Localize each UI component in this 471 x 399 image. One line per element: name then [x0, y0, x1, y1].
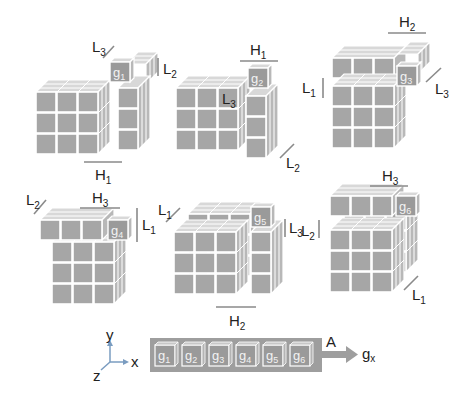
dim-label-L2: L2: [26, 191, 40, 211]
dim-label-L2: L2: [286, 154, 300, 174]
bar-block-g4: g4: [236, 342, 259, 366]
dim-label-L1: L1: [302, 79, 316, 99]
dim-label-L3: L3: [92, 38, 106, 58]
panel-4: g4 L2 H3 L1: [26, 189, 156, 304]
dim-label-H1: H1: [95, 166, 112, 186]
arrow-icon: [322, 351, 348, 358]
arrow-label-A: A: [326, 333, 336, 350]
dim-label-H2: H2: [399, 13, 416, 33]
axes-icon: y x z: [93, 326, 139, 384]
dim-label-L1: L1: [142, 216, 156, 236]
dim-label-H1: H1: [250, 41, 267, 61]
bar-block-g3: g3: [209, 342, 232, 366]
dim-label-L2: L2: [163, 60, 177, 80]
panel-6: g6 H3 L2 L1: [301, 167, 426, 306]
block-sequence-bar: g1 g2 g3 g4 g5 g6 A gx: [150, 333, 375, 372]
bar-block-g6: g6: [290, 342, 313, 366]
bar-block-g1: g1: [155, 342, 178, 366]
result-label-gx: gx: [362, 345, 375, 364]
bar-block-g2: g2: [182, 342, 205, 366]
panel-2: g2 H1 L3 L2: [176, 41, 300, 174]
axis-x-label: x: [131, 353, 139, 370]
axis-y-label: y: [106, 326, 114, 343]
axis-z-label: z: [93, 367, 101, 384]
dim-label-H2: H2: [229, 312, 246, 332]
decomposition-diagram: g1 L3 L2 H1 g2 H1 L3 L2 g3 H2 L1 L3: [0, 0, 471, 399]
panel-1: g1 L3 L2 H1: [36, 38, 177, 186]
panel-3: g3 H2 L1 L3: [302, 13, 449, 148]
dim-label-L1: L1: [412, 286, 426, 306]
dim-label-L1: L1: [158, 201, 172, 221]
dim-label-L2: L2: [301, 222, 315, 242]
bar-block-g5: g5: [263, 342, 286, 366]
panel-5: g5 L1 L3 H2: [158, 201, 303, 332]
dim-label-L3: L3: [435, 80, 449, 100]
dim-label-H3: H3: [92, 189, 109, 209]
